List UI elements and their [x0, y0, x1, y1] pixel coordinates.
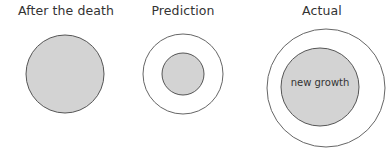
diagram-canvas: new growth: [0, 0, 392, 153]
new-growth-label: new growth: [291, 77, 350, 88]
after-death-filled-circle: [26, 35, 104, 113]
prediction-inner-filled-circle: [162, 53, 204, 95]
